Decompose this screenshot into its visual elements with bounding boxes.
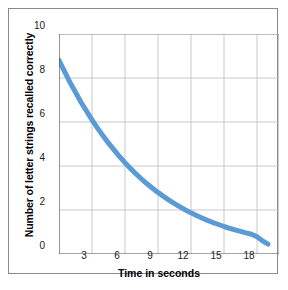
x-tick-label: 18 [239, 250, 259, 261]
data-line [59, 60, 268, 244]
figure-frame: Number of letter strings recalled correc… [8, 8, 278, 274]
x-tick-label: 12 [173, 250, 193, 261]
y-axis-title: Number of letter strings recalled correc… [23, 27, 35, 243]
x-tick-label: 6 [107, 250, 127, 261]
grid-lines [59, 34, 279, 254]
y-tick-label: 10 [29, 20, 45, 31]
y-tick-label: 8 [29, 64, 45, 75]
y-tick-label: 6 [29, 108, 45, 119]
x-tick-label: 9 [140, 250, 160, 261]
y-tick-label: 0 [29, 240, 45, 251]
data-series-group [59, 60, 268, 244]
x-tick-label: 3 [74, 250, 94, 261]
line-chart-svg [59, 34, 279, 254]
x-axis-title: Time in seconds [39, 267, 279, 279]
plot-area [59, 34, 279, 254]
y-tick-label: 2 [29, 196, 45, 207]
figure-root: Number of letter strings recalled correc… [0, 0, 288, 290]
y-tick-label: 4 [29, 152, 45, 163]
x-tick-label: 15 [206, 250, 226, 261]
